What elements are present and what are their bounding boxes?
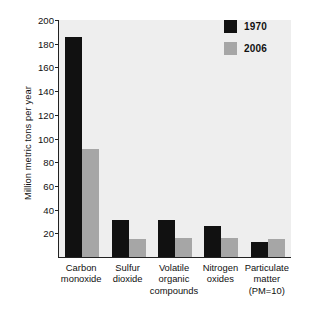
bar-group (112, 20, 146, 257)
bar-2006-4 (221, 238, 238, 257)
legend-item-2006: 2006 (224, 42, 296, 55)
bar-1970-4 (204, 226, 221, 257)
bar-2006-2 (129, 239, 146, 257)
y-axis-tick-label: 160 (26, 62, 54, 73)
bar-1970-2 (112, 220, 129, 257)
x-axis-label-line: (PM=10) (239, 285, 295, 296)
y-axis-tick-label: 20 (26, 228, 54, 239)
legend-label: 2006 (244, 43, 267, 54)
legend-item-1970: 1970 (224, 20, 296, 33)
bar-group (65, 20, 99, 257)
y-axis-tick-label: 60 (26, 180, 54, 191)
y-axis-tick-label: 180 (26, 38, 54, 49)
x-axis-label-5: Particulatematter(PM=10) (239, 262, 295, 296)
legend-label: 1970 (244, 21, 267, 32)
bar-group (158, 20, 192, 257)
x-axis-label-line: compounds (146, 285, 202, 296)
y-axis-tick-label: 200 (26, 15, 54, 26)
y-axis-tick-label: 80 (26, 157, 54, 168)
bar-1970-1 (65, 37, 82, 257)
bar-2006-5 (268, 239, 285, 257)
bar-2006-1 (82, 149, 99, 257)
y-axis-tick-label: 120 (26, 109, 54, 120)
bar-1970-5 (251, 242, 268, 257)
bar-chart: Million metric tons per year 20406080100… (0, 0, 309, 311)
y-axis-tick-label: 140 (26, 86, 54, 97)
y-axis-tick-label: 40 (26, 204, 54, 215)
y-axis-tick-label: 100 (26, 133, 54, 144)
chart-legend: 19702006 (224, 20, 296, 64)
x-axis-label-line: matter (239, 273, 295, 284)
legend-swatch-icon (224, 42, 237, 55)
bar-2006-3 (175, 238, 192, 257)
bar-1970-3 (158, 220, 175, 257)
x-axis-label-line: Particulate (239, 262, 295, 273)
legend-swatch-icon (224, 20, 237, 33)
